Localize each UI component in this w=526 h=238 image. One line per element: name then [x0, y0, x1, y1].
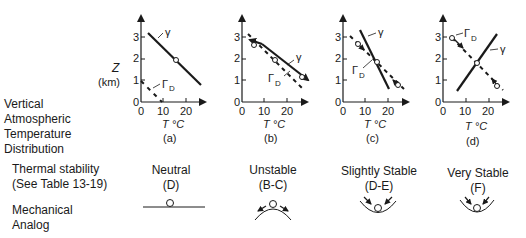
svg-text:2: 2 [234, 52, 240, 64]
y-axis-label: Z [111, 61, 120, 75]
svg-text:0: 0 [239, 105, 245, 117]
svg-text:0: 0 [440, 105, 446, 117]
svg-text:D: D [471, 34, 477, 43]
svg-text:γ: γ [500, 43, 506, 55]
svg-text:3: 3 [435, 31, 441, 43]
panel-b-chart: 0 1 2 3 0 10 20 T °C (b) γ Γ D [234, 16, 308, 144]
panel-d-chart: 0 1 2 3 0 10 20 T °C (d) Γ D γ [435, 16, 508, 147]
diagram-canvas: Z (km) 0 1 2 3 0 10 20 T °C (a) γ Γ D [0, 0, 526, 238]
analog-neutral [143, 200, 205, 208]
analog-unstable [255, 201, 291, 221]
svg-text:3: 3 [335, 31, 341, 43]
svg-text:γ: γ [378, 26, 384, 38]
svg-text:T °C: T °C [263, 118, 285, 130]
svg-text:T °C: T °C [364, 118, 386, 130]
svg-text:20: 20 [382, 105, 394, 117]
svg-text:20: 20 [482, 105, 494, 117]
svg-text:2: 2 [435, 52, 441, 64]
svg-text:0: 0 [340, 105, 346, 117]
svg-text:Γ: Γ [268, 72, 274, 84]
svg-text:γ: γ [165, 26, 171, 38]
svg-text:20: 20 [180, 105, 192, 117]
svg-text:D: D [169, 84, 175, 93]
svg-text:T °C: T °C [162, 118, 184, 130]
svg-text:0: 0 [138, 105, 144, 117]
svg-text:Γ: Γ [162, 78, 168, 90]
svg-text:3: 3 [234, 31, 240, 43]
svg-text:1: 1 [335, 74, 341, 86]
svg-text:1: 1 [133, 74, 139, 86]
svg-text:1: 1 [435, 74, 441, 86]
svg-text:20: 20 [281, 105, 293, 117]
svg-text:(c): (c) [366, 132, 379, 144]
svg-text:3: 3 [133, 31, 139, 43]
analog-slightly-stable [360, 197, 396, 213]
svg-text:γ: γ [296, 51, 302, 63]
svg-text:2: 2 [133, 52, 139, 64]
y-axis-unit: (km) [98, 76, 120, 88]
svg-text:10: 10 [157, 105, 169, 117]
svg-text:2: 2 [335, 52, 341, 64]
panel-c-chart: 0 1 2 3 0 10 20 T °C (c) γ Γ D [335, 16, 408, 144]
svg-text:1: 1 [234, 74, 240, 86]
svg-text:10: 10 [258, 105, 270, 117]
svg-text:D: D [359, 71, 365, 80]
svg-text:10: 10 [359, 105, 371, 117]
svg-text:Γ: Γ [352, 64, 358, 76]
svg-text:T °C: T °C [465, 120, 487, 132]
analog-very-stable [460, 197, 494, 212]
panel-a-chart: 0 1 2 3 0 10 20 T °C (a) γ Γ D [133, 16, 205, 144]
svg-text:(a): (a) [163, 132, 176, 144]
svg-text:D: D [275, 79, 281, 88]
svg-text:Γ: Γ [464, 27, 470, 39]
svg-text:(b): (b) [264, 132, 277, 144]
svg-text:(d): (d) [466, 135, 479, 147]
svg-text:10: 10 [459, 105, 471, 117]
